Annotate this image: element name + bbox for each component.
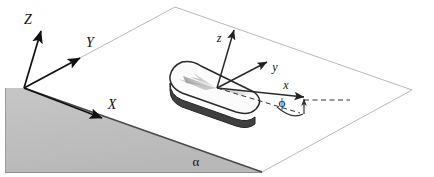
global-axis-z-label: Z: [24, 12, 32, 27]
diagram-canvas: Z Y X z y x: [0, 0, 434, 177]
figure-root: Z Y X z y x: [0, 0, 434, 177]
local-axis-y-label: y: [271, 60, 278, 74]
local-axis-z-label: z: [216, 31, 222, 45]
global-axis-x-label: X: [107, 97, 117, 112]
phi-angle-label: ϕ: [279, 95, 286, 110]
local-axis-x-label: x: [282, 78, 289, 92]
alpha-angle-group: α: [193, 154, 200, 169]
alpha-angle-label: α: [193, 154, 200, 169]
